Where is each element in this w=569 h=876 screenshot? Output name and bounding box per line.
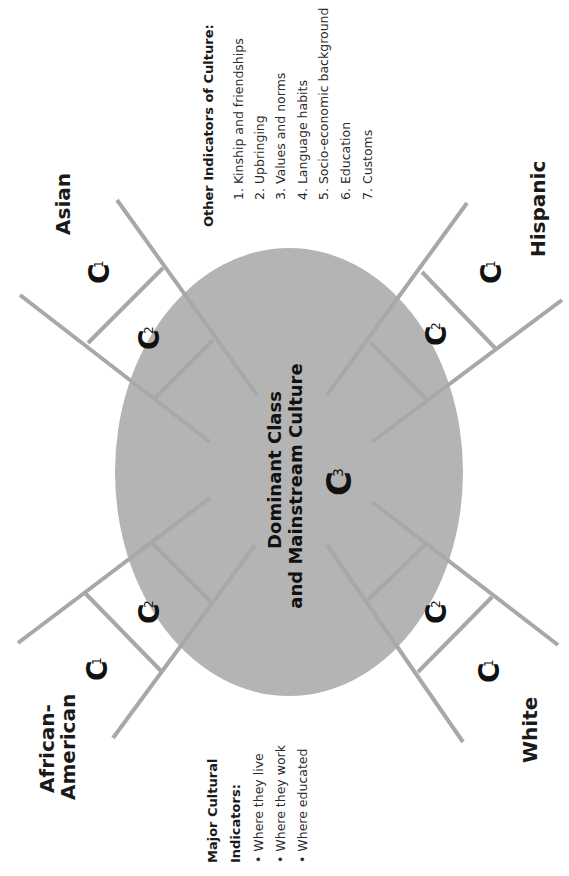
- hispanic-c1-label: C 1: [475, 260, 508, 284]
- group-label-african-american-line2: American: [56, 694, 80, 800]
- major-indicators-title-line1: Major Cultural: [205, 759, 220, 863]
- asian-c1-subscript: 1: [92, 260, 106, 268]
- hispanic-c1-subscript: 1: [484, 260, 498, 268]
- african-american-c1-label: C 1: [81, 657, 114, 681]
- asian-c1-label: C 1: [83, 260, 116, 284]
- hispanic-c2-subscript: 2: [429, 322, 443, 330]
- white-c2-subscript: 2: [429, 600, 443, 608]
- major-indicators-title-line2: Indicators:: [228, 784, 243, 863]
- african-american-c2-subscript: 2: [142, 600, 156, 608]
- asian-c2-label: C 2: [133, 326, 166, 350]
- african-american-c1-subscript: 1: [90, 657, 104, 665]
- asian-c2-subscript: 2: [142, 326, 156, 334]
- other-indicator-item: 7. Customs: [360, 130, 375, 200]
- other-indicator-item: 5. Socio-economic background: [316, 8, 331, 200]
- white-c2-label: C 2: [420, 600, 453, 624]
- other-indicator-item: 3. Values and norms: [273, 73, 288, 200]
- other-indicator-item: 6. Education: [338, 122, 353, 200]
- culture-diagram: Dominant Class and Mainstream Culture C …: [0, 0, 569, 876]
- c3-label: C 3: [319, 468, 359, 496]
- group-label-asian: Asian: [51, 173, 75, 235]
- hispanic-c2-label: C 2: [420, 322, 453, 346]
- group-label-white: White: [518, 697, 542, 763]
- center-title-line1: Dominant Class: [264, 391, 285, 549]
- group-label-hispanic: Hispanic: [526, 161, 550, 257]
- other-indicators-title: Other Indicators of Culture:: [201, 24, 216, 227]
- other-indicator-item: 1. Kinship and friendships: [231, 38, 246, 200]
- c3-subscript: 3: [330, 468, 346, 477]
- other-indicator-item: 4. Language habits: [295, 80, 310, 200]
- other-indicators-panel: Other Indicators of Culture: 1. Kinship …: [201, 8, 375, 227]
- major-indicators-panel: Major Cultural Indicators: • Where they …: [205, 744, 310, 863]
- center-title-line2: and Mainstream Culture: [285, 363, 306, 608]
- major-indicator-item: • Where educated: [295, 749, 310, 863]
- white-c1-label: C 1: [473, 659, 506, 683]
- major-indicator-item: • Where they work: [273, 744, 288, 863]
- african-american-c2-label: C 2: [133, 600, 166, 624]
- major-indicator-item: • Where they live: [251, 753, 266, 863]
- other-indicator-item: 2. Upbringing: [252, 115, 267, 200]
- white-c1-subscript: 1: [482, 659, 496, 667]
